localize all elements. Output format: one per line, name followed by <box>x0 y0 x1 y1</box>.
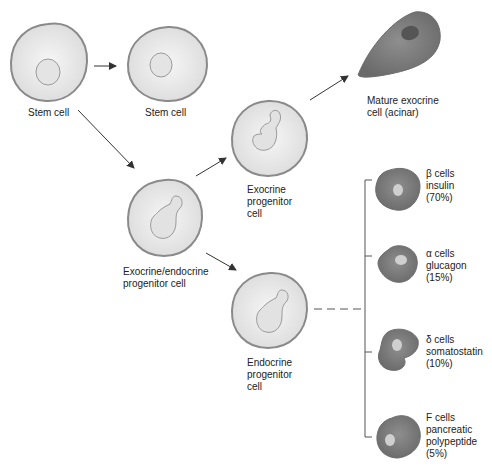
exocrine-progenitor-line2: progenitor <box>247 196 292 208</box>
endocrine-progenitor-shape <box>232 273 307 348</box>
endocrine-progenitor-line1: Endocrine <box>247 357 292 369</box>
beta-cell-label: β cells insulin (70%) <box>426 168 455 204</box>
beta-cell-type: β cells <box>426 168 455 180</box>
stem-cell-2-shape <box>128 27 207 101</box>
endocrine-progenitor-line3: cell <box>247 381 292 393</box>
endocrine-progenitor-line2: progenitor <box>247 369 292 381</box>
exo-endo-progenitor-line2: progenitor cell <box>123 278 209 290</box>
f-cell-hormone: pancreatic <box>426 424 477 436</box>
exocrine-progenitor-line1: Exocrine <box>247 184 292 196</box>
mature-exocrine-cell-shape <box>358 12 440 77</box>
alpha-cell-label: α cells glucagon (15%) <box>426 248 467 284</box>
f-cell-shape <box>377 416 420 458</box>
delta-cell-percent: (10%) <box>426 358 483 370</box>
alpha-cell-shape <box>378 246 417 283</box>
delta-cell-type: δ cells <box>426 334 483 346</box>
exocrine-progenitor-label: Exocrine progenitor cell <box>247 184 292 220</box>
exocrine-progenitor-shape <box>232 101 307 176</box>
arrow-to-exocrine-progenitor <box>196 158 226 176</box>
mature-exocrine-label: Mature exocrine cell (acinar) <box>367 95 439 119</box>
beta-cell-shape <box>376 168 420 210</box>
arrow-to-endocrine-progenitor <box>206 253 236 270</box>
f-cell-hormone2: polypeptide <box>426 436 477 448</box>
arrow-stem-to-progenitor <box>78 110 134 168</box>
delta-cell-shape <box>378 329 418 370</box>
alpha-cell-hormone: glucagon <box>426 260 467 272</box>
beta-cell-percent: (70%) <box>426 192 455 204</box>
exo-endo-progenitor-label: Exocrine/endocrine progenitor cell <box>123 266 209 290</box>
mature-exocrine-line2: cell (acinar) <box>367 107 439 119</box>
stem-cell-1-shape <box>11 23 87 101</box>
f-cell-percent: (5%) <box>426 448 477 460</box>
f-cell-type: F cells <box>426 412 477 424</box>
stem-cell-2-label: Stem cell <box>145 107 186 119</box>
exo-endo-progenitor-line1: Exocrine/endocrine <box>123 266 209 278</box>
alpha-cell-percent: (15%) <box>426 272 467 284</box>
f-cell-label: F cells pancreatic polypeptide (5%) <box>426 412 477 460</box>
endocrine-progenitor-label: Endocrine progenitor cell <box>247 357 292 393</box>
beta-cell-hormone: insulin <box>426 180 455 192</box>
arrow-to-mature-exocrine <box>310 76 348 100</box>
exo-endo-progenitor-shape <box>128 180 202 256</box>
mature-exocrine-line1: Mature exocrine <box>367 95 439 107</box>
exocrine-progenitor-line3: cell <box>247 208 292 220</box>
stem-cell-1-label: Stem cell <box>28 107 69 119</box>
diagram-canvas <box>0 0 492 471</box>
delta-cell-label: δ cells somatostatin (10%) <box>426 334 483 370</box>
delta-cell-hormone: somatostatin <box>426 346 483 358</box>
alpha-cell-type: α cells <box>426 248 467 260</box>
